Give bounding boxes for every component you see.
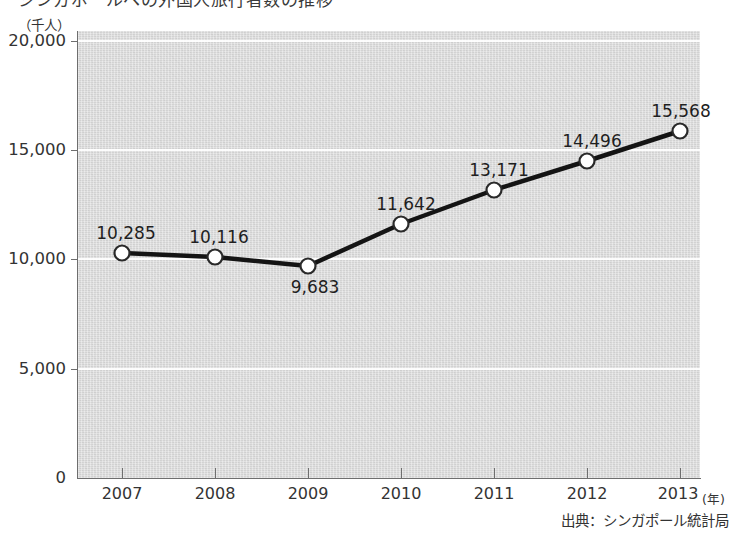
data-label-2011: 13,171	[469, 160, 528, 180]
data-label-2013: 15,568	[651, 101, 710, 121]
data-label-2009: 9,683	[291, 277, 340, 297]
data-point-2011	[487, 183, 502, 198]
data-label-2012: 14,496	[562, 131, 621, 151]
data-point-2013	[673, 124, 688, 139]
series-plot	[0, 0, 741, 542]
data-point-2007	[115, 246, 130, 261]
source-note: 出典：シンガポール統計局	[561, 509, 729, 530]
data-label-2007: 10,285	[96, 223, 155, 243]
data-point-2010	[394, 217, 409, 232]
data-point-2009	[301, 259, 316, 274]
data-point-2012	[580, 154, 595, 169]
data-label-2010: 11,642	[376, 194, 435, 214]
line-chart: （千人） 20,000 15,000 10,000 5,000 0 2007 2…	[0, 0, 741, 542]
data-label-2008: 10,116	[189, 227, 248, 247]
data-point-2008	[208, 250, 223, 265]
